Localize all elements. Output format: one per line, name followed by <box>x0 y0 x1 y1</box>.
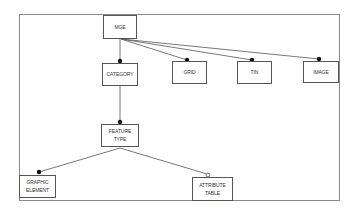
entity-image-label: IMAGE <box>313 69 329 76</box>
diagram-canvas: MGE CATEGORY GRID TIN IMAGE FEATURE TYPE… <box>0 0 357 213</box>
link-feature-type-attribute-table <box>120 148 207 174</box>
entity-feature-type[interactable]: FEATURE TYPE <box>101 124 139 147</box>
entity-graphic-element-label-line2: ELEMENT <box>26 187 49 194</box>
entity-tin-label: TIN <box>251 69 259 76</box>
entity-mge-label: MGE <box>114 24 125 31</box>
link-mge-image <box>121 39 319 59</box>
entity-grid[interactable]: GRID <box>172 61 207 84</box>
entity-tin[interactable]: TIN <box>237 61 272 84</box>
entity-category[interactable]: CATEGORY <box>102 63 138 86</box>
entity-grid-label: GRID <box>183 69 195 76</box>
link-mge-tin <box>121 39 252 60</box>
entity-graphic-element[interactable]: GRAPHIC ELEMENT <box>19 175 56 198</box>
entity-feature-type-label-line1: FEATURE <box>109 128 131 135</box>
entity-attribute-table-label-line1: ATTRIBUTE <box>199 182 226 189</box>
entity-mge[interactable]: MGE <box>103 15 137 39</box>
entity-category-label: CATEGORY <box>107 71 134 78</box>
entity-attribute-table[interactable]: ATTRIBUTE TABLE <box>192 177 233 201</box>
entity-image[interactable]: IMAGE <box>303 61 339 83</box>
entity-attribute-table-label-line2: TABLE <box>205 190 220 197</box>
entity-feature-type-label-line2: TYPE <box>114 136 127 143</box>
link-feature-type-graphic-element <box>39 148 120 172</box>
entity-graphic-element-label-line1: GRAPHIC <box>26 179 48 186</box>
filled-circle-icon <box>37 170 41 174</box>
